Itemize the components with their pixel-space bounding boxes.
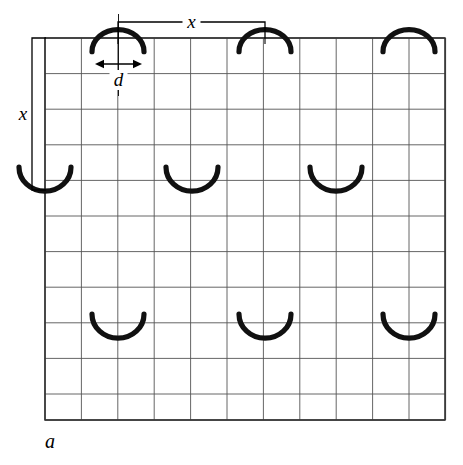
grid — [45, 38, 445, 420]
grid-vertical-lines — [45, 38, 445, 420]
vertical-period-bracket: x — [18, 38, 46, 190]
figure-panel-a: x x d a — [0, 0, 463, 465]
arc-stroke — [166, 167, 218, 191]
arc-width-left-arrowhead — [95, 60, 104, 68]
grid-horizontal-lines — [45, 38, 445, 420]
vertical-period-label: x — [18, 103, 28, 124]
panel-label-a: a — [45, 430, 55, 452]
arc-cup-up — [239, 314, 291, 338]
vertical-bracket-line — [32, 38, 46, 190]
arc-stroke — [239, 314, 291, 338]
arc-width-label: d — [114, 69, 124, 90]
horizontal-period-label: x — [186, 11, 196, 32]
grid-border — [45, 38, 445, 420]
arc-cup-up — [166, 167, 218, 191]
grid-outer-border — [45, 38, 445, 420]
arc-width-right-arrowhead — [133, 60, 142, 68]
arc-width-dimension: d — [95, 14, 142, 96]
diagram-canvas: x x d a — [0, 0, 463, 465]
